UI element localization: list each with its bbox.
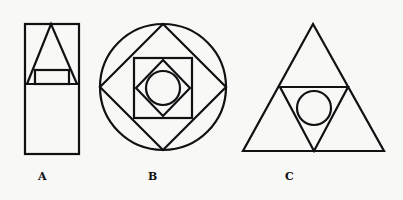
figure-a-shape (25, 24, 79, 154)
figure-c-label: C (285, 170, 294, 183)
figures-svg (0, 0, 403, 200)
figure-a-label: A (38, 170, 47, 183)
figure-c-shape (243, 24, 384, 151)
figure-b-shape (100, 24, 226, 150)
diagram-canvas: A B C (0, 0, 403, 200)
figure-b-label: B (148, 170, 157, 183)
